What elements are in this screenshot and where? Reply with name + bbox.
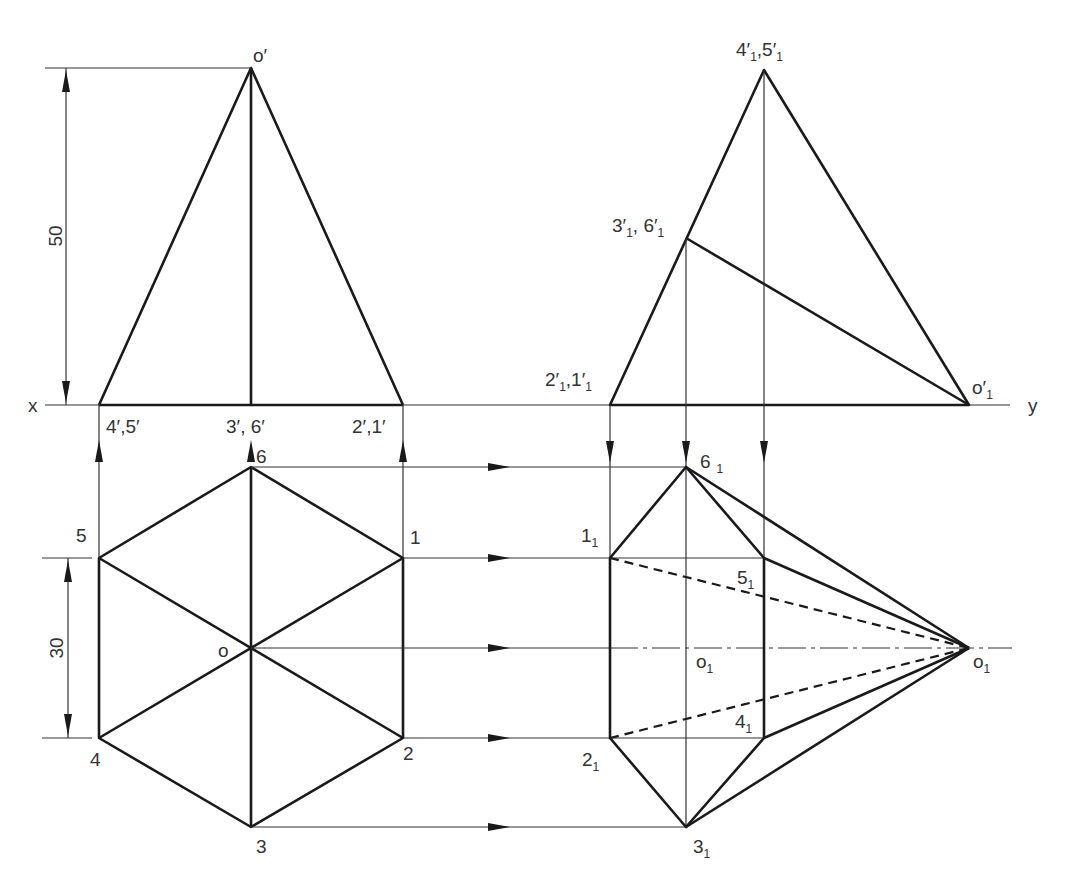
aux-plan-apex-label: o1 [973,651,991,676]
vertex-5-label: 5 [76,525,87,546]
aux-plan-3-label: 31 [693,836,711,861]
base-label-21: 2′,1′ [352,416,386,437]
y-label: y [1028,395,1038,416]
vertex-4-label: 4 [90,749,101,770]
aux-label-45: 4′1,5′1 [736,39,783,64]
aux-plan-6-label: 61 [700,451,724,476]
aux-plan-1-label: 11 [581,525,599,550]
vertex-6-label: 6 [256,446,267,467]
aux-plan-2-label: 21 [582,749,600,774]
projectors-horizontal [251,463,1012,831]
aux-plan-4-label: 41 [735,711,753,736]
aux-label-36: 3′1, 6′1 [612,215,665,240]
vertex-2-label: 2 [403,743,414,764]
vertex-1-label: 1 [410,527,421,548]
auxiliary-plan [610,467,969,827]
base-label-45: 4′,5′ [106,416,140,437]
dimension-50-label: 50 [45,225,66,246]
projection-drawing: x y o′ 4′,5′ 3′, 6′ 2′,1′ 50 6 1 2 3 4 5… [0,0,1070,884]
vertex-3-label: 3 [256,836,267,857]
aux-apex-label: o′1 [972,377,993,402]
aux-plan-o-label: o1 [696,651,714,676]
dimension-30-label: 30 [46,637,67,658]
dimension-height [45,68,251,405]
front-view [99,68,403,405]
top-view [99,467,403,827]
center-o-label: o [218,640,229,661]
aux-plan-5-label: 51 [737,567,755,592]
apex-label-front: o′ [253,45,268,66]
aux-label-21: 2′1,1′1 [545,369,592,394]
x-label: x [28,395,38,416]
base-label-36: 3′, 6′ [226,416,265,437]
